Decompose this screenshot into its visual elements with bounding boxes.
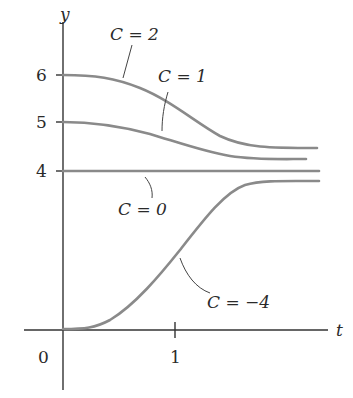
curve-c1: [63, 122, 306, 159]
y-axis-label: y: [59, 4, 70, 24]
label-c2: C = 2: [110, 24, 159, 44]
leader-c-4: [180, 258, 210, 293]
y-tick-label-5: 5: [36, 112, 47, 132]
t-tick-label-1: 1: [170, 347, 181, 367]
chart: y t 0 1 6 5 4 C = 2 C = 1 C = 0 C = −4: [0, 0, 353, 398]
t-axis-label: t: [336, 320, 343, 340]
label-c-4: C = −4: [207, 292, 270, 312]
curve-c-4: [63, 181, 319, 329]
label-c1: C = 1: [158, 66, 207, 86]
y-tick-label-4: 4: [36, 161, 47, 181]
label-c0: C = 0: [118, 199, 167, 219]
leader-c0: [145, 177, 152, 198]
y-tick-label-6: 6: [36, 65, 47, 85]
leader-c2: [123, 45, 132, 78]
origin-label: 0: [38, 347, 49, 367]
